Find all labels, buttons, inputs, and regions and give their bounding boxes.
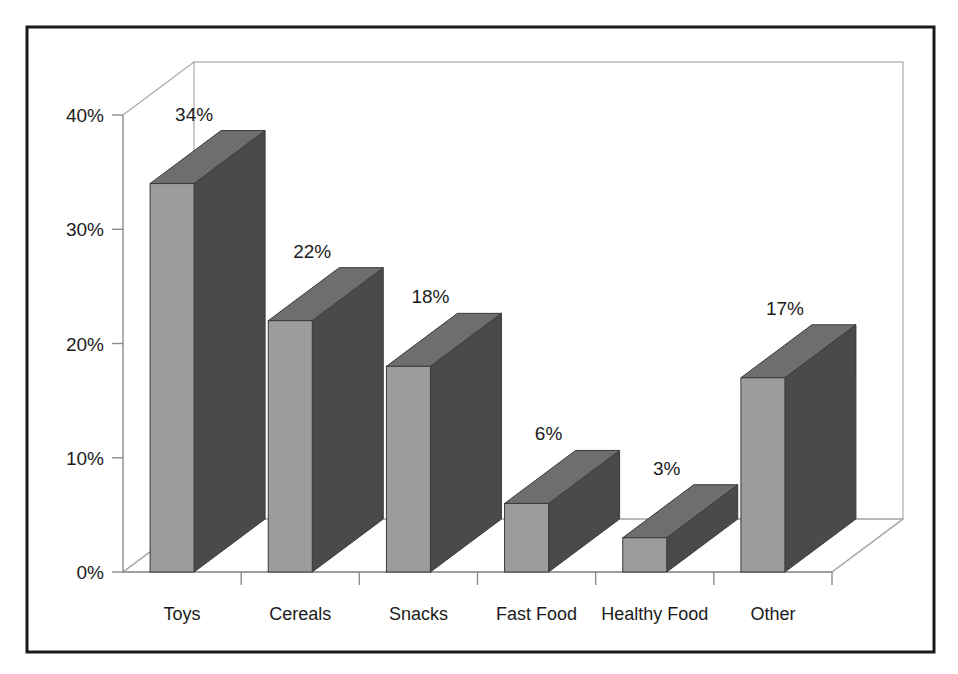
y-axis-tick-label: 40% <box>66 105 104 126</box>
x-axis-category-label: Other <box>750 604 795 624</box>
bar-value-label: 18% <box>411 286 449 307</box>
bar-front-face <box>386 366 430 572</box>
bar-side-face <box>194 131 265 572</box>
bar-value-label: 22% <box>293 241 331 262</box>
chart-canvas: 0%10%20%30%40%34%Toys22%Cereals18%Snacks… <box>0 0 958 674</box>
bar-value-label: 17% <box>766 298 804 319</box>
y-axis-tick-label: 20% <box>66 334 104 355</box>
bar-value-label: 34% <box>175 104 213 125</box>
x-axis-category-label: Fast Food <box>496 604 577 624</box>
y-axis-tick-label: 30% <box>66 219 104 240</box>
bar-front-face <box>268 321 312 572</box>
y-axis-tick-label: 0% <box>77 562 105 583</box>
x-axis-category-label: Snacks <box>389 604 448 624</box>
bar-front-face <box>505 503 549 572</box>
bar-group[interactable]: 34% <box>150 104 265 572</box>
bar-front-face <box>623 538 667 572</box>
bar-value-label: 6% <box>535 423 563 444</box>
x-axis-category-label: Healthy Food <box>601 604 708 624</box>
bar-value-label: 3% <box>653 458 681 479</box>
bar-front-face <box>741 378 785 572</box>
y-axis-tick-label: 10% <box>66 448 104 469</box>
x-axis-category-label: Cereals <box>269 604 331 624</box>
bar-front-face <box>150 184 194 572</box>
x-axis-category-label: Toys <box>164 604 201 624</box>
chart-figure: 0%10%20%30%40%34%Toys22%Cereals18%Snacks… <box>0 0 958 674</box>
